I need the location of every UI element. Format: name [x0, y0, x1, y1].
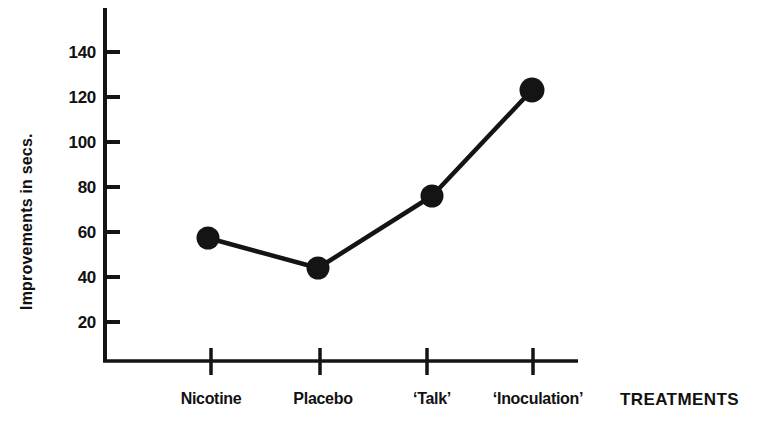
data-point-talk — [421, 185, 444, 208]
data-point-inoculation — [520, 78, 545, 103]
y-tick-label-140: 140 — [69, 44, 96, 61]
x-tick-label-talk: ‘Talk’ — [413, 391, 451, 407]
y-tick-label-120: 120 — [69, 89, 96, 106]
y-tick-label-100: 100 — [69, 134, 96, 151]
data-point-placebo — [307, 257, 330, 280]
y-tick-label-60: 60 — [78, 224, 96, 241]
y-tick-label-80: 80 — [78, 179, 96, 196]
data-point-nicotine — [197, 227, 220, 250]
x-axis-title: TREATMENTS — [620, 390, 739, 410]
y-axis-title: Improvements in secs. — [18, 133, 36, 310]
data-line — [208, 90, 532, 268]
x-tick-label-inoculation: ‘Inoculation’ — [493, 391, 583, 407]
chart-canvas — [0, 0, 763, 426]
y-tick-label-20: 20 — [78, 314, 96, 331]
y-tick-label-40: 40 — [78, 269, 96, 286]
line-chart-figure: 140 120 100 80 60 40 20 Improvements in … — [0, 0, 763, 426]
y-axis-ticks — [105, 52, 120, 322]
x-tick-label-nicotine: Nicotine — [181, 391, 242, 407]
x-tick-label-placebo: Placebo — [293, 391, 352, 407]
